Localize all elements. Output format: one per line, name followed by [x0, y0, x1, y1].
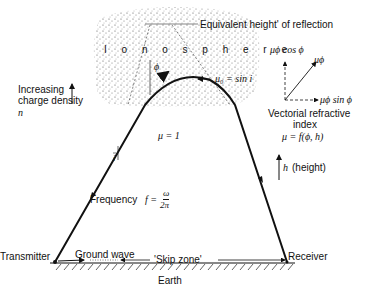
ionospheric-reflection-diagram: I o n o s p h e r e Equivalent height' o…	[0, 0, 371, 293]
incidence-angle-label: i	[113, 153, 115, 164]
charge-density-symbol: n	[18, 107, 23, 118]
earth-label: Earth	[158, 275, 182, 286]
skip-zone-label: 'Skip zone'	[154, 254, 202, 265]
ionosphere-label: I o n o s p h e r e	[104, 44, 293, 55]
frequency-denominator: 2π	[160, 200, 169, 211]
index-label: index	[293, 119, 317, 130]
frequency-f: f =	[145, 194, 157, 205]
height-symbol: h	[283, 162, 288, 173]
transmitter-point	[53, 260, 57, 264]
frequency-label: Frequency	[90, 194, 137, 205]
height-label: (height)	[292, 162, 326, 173]
mu-phi-label: μϕ	[314, 54, 324, 65]
increasing-label: Increasing	[18, 84, 64, 95]
transmitter-label: Transmitter	[0, 251, 50, 262]
mu0-sin-i-label: μ₀ = sin i	[215, 73, 252, 84]
ground-wave-arrow	[58, 260, 84, 261]
ground-wave-label: Ground wave	[75, 249, 134, 260]
mu-phi-cos-phi-label: μϕ cos ϕ	[270, 44, 304, 55]
mu-phi-sin-phi-label: μϕ sin ϕ	[320, 94, 352, 105]
frequency-numerator: ω	[163, 188, 169, 200]
mu-equals-one-label: μ = 1	[158, 130, 180, 141]
mu-phi-vector-arrow	[285, 62, 316, 100]
receiver-label: Receiver	[288, 251, 327, 262]
equivalent-height-label: Equivalent height' of reflection	[200, 19, 333, 30]
vectorial-refractive-label: Vectorial refractive	[268, 108, 350, 119]
phi-label: ϕ	[154, 61, 159, 72]
charge-density-label: charge density	[18, 95, 83, 106]
mu-function-label: μ = f(ϕ, h)	[282, 131, 323, 142]
